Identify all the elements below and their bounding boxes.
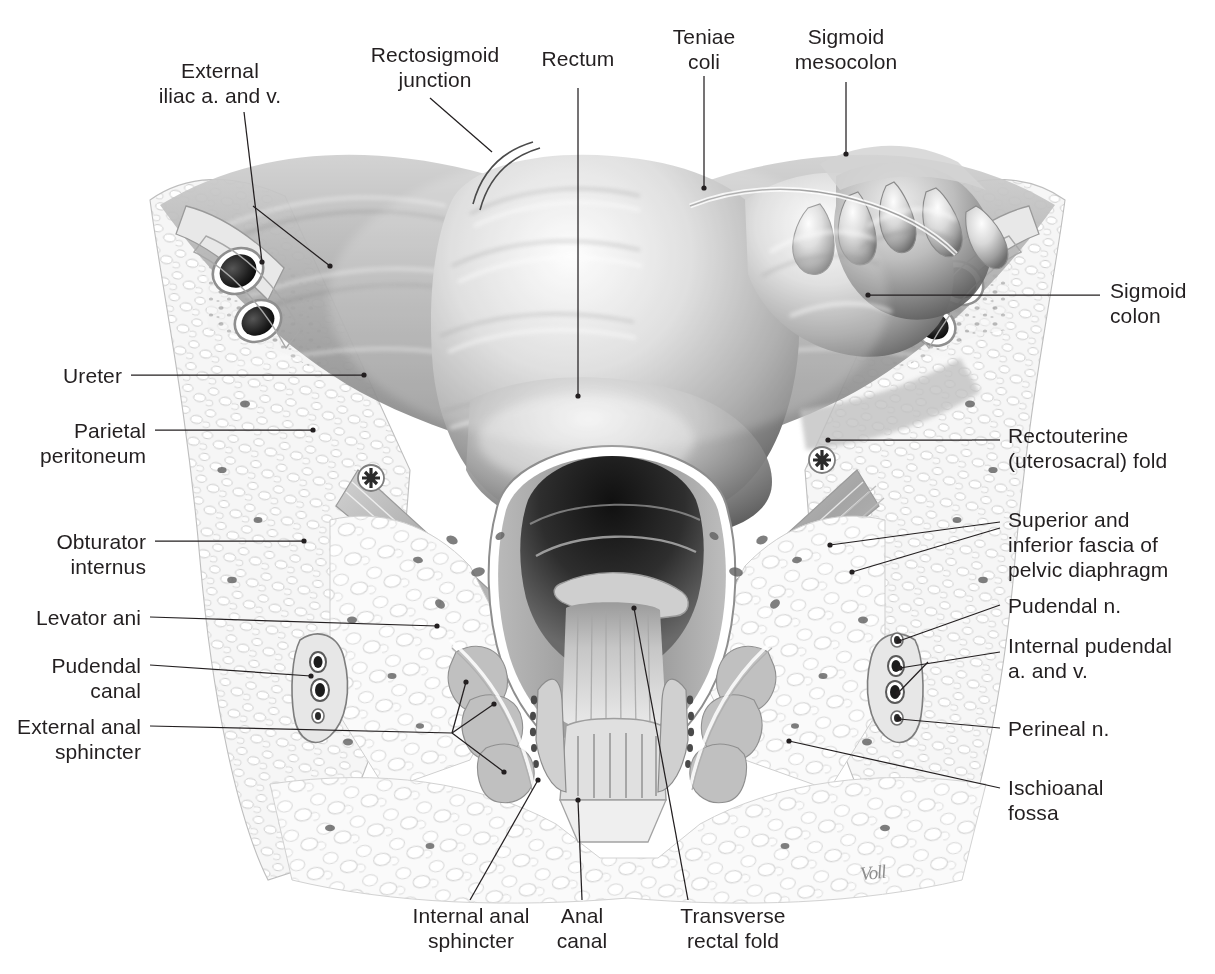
label-pudendal-n: Pudendal n. — [1008, 593, 1208, 618]
label-external-anal-sphincter: External anal sphincter — [0, 714, 141, 764]
label-perineal-n: Perineal n. — [1008, 716, 1208, 741]
label-sigmoid-colon: Sigmoid colon — [1110, 278, 1215, 328]
illustrator-signature: Voll — [859, 861, 887, 886]
label-external-iliac-vessels: External iliac a. and v. — [130, 58, 310, 108]
label-levator-ani: Levator ani — [0, 605, 141, 630]
label-sigmoid-mesocolon: Sigmoid mesocolon — [770, 24, 922, 74]
label-parietal-peritoneum: Parietal peritoneum — [0, 418, 146, 468]
label-transverse-rectal-fold: Transverse rectal fold — [638, 903, 828, 953]
label-pelvic-diaphragm-fascia: Superior and inferior fascia of pelvic d… — [1008, 507, 1215, 582]
label-teniae-coli: Teniae coli — [644, 24, 764, 74]
label-rectouterine-fold: Rectouterine (uterosacral) fold — [1008, 423, 1215, 473]
label-internal-pudendal-vessels: Internal pudendal a. and v. — [1008, 633, 1215, 683]
label-obturator-internus: Obturator internus — [0, 529, 146, 579]
label-pudendal-canal: Pudendal canal — [0, 653, 141, 703]
label-anal-canal: Anal canal — [522, 903, 642, 953]
anatomical-plate: External iliac a. and v. Rectosigmoid ju… — [0, 0, 1215, 974]
label-ureter: Ureter — [0, 363, 122, 388]
anatomy-illustration — [0, 0, 1215, 974]
label-ischioanal-fossa: Ischioanal fossa — [1008, 775, 1188, 825]
label-rectosigmoid-junction: Rectosigmoid junction — [340, 42, 530, 92]
label-rectum: Rectum — [508, 46, 648, 71]
